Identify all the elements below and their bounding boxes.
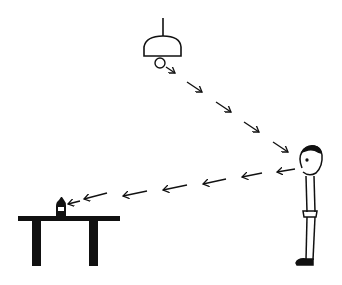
ceiling-lamp: [144, 18, 181, 68]
sight-arrows: [68, 169, 295, 204]
person: [296, 146, 322, 265]
bottle: [56, 197, 66, 216]
table: [18, 216, 120, 266]
illustration: [0, 0, 342, 285]
light-ray-arrows: [166, 67, 288, 152]
bulb-icon: [155, 58, 165, 68]
